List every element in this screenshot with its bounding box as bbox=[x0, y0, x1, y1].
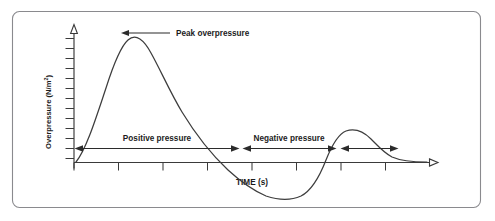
overpressure-curve bbox=[76, 37, 427, 199]
peak-overpressure-label: Peak overpressure bbox=[176, 29, 250, 38]
y-axis-arrowhead-icon bbox=[71, 25, 78, 34]
x-axis-group: TIME (s) bbox=[74, 159, 438, 187]
y-axis-label: Overpressure (N/m2) bbox=[43, 75, 53, 149]
x-axis-ticks bbox=[74, 163, 386, 171]
annotation-peak-overpressure: Peak overpressure bbox=[121, 29, 250, 38]
x-axis-label: TIME (s) bbox=[236, 178, 268, 187]
peak-overpressure-arrowhead-icon bbox=[121, 30, 129, 36]
negative-pressure-left-arrowhead-icon bbox=[243, 145, 252, 152]
second-positive-phase-left-arrowhead-icon bbox=[341, 145, 350, 152]
positive-pressure-right-arrowhead-icon bbox=[231, 145, 240, 152]
figure-root: Overpressure (N/m2) TIME (s) bbox=[0, 0, 495, 221]
overpressure-time-chart: Overpressure (N/m2) TIME (s) bbox=[0, 0, 495, 221]
annotation-negative-pressure: Negative pressure bbox=[243, 134, 337, 152]
x-axis-arrowhead-icon bbox=[430, 159, 439, 166]
positive-pressure-left-arrowhead-icon bbox=[75, 145, 84, 152]
y-axis-ticks bbox=[66, 39, 75, 159]
positive-pressure-label: Positive pressure bbox=[123, 134, 192, 143]
second-positive-phase-right-arrowhead-icon bbox=[390, 145, 399, 152]
annotation-positive-pressure: Positive pressure bbox=[75, 134, 240, 152]
y-axis-group: Overpressure (N/m2) bbox=[43, 25, 77, 169]
y-axis-label-group: Overpressure (N/m2) bbox=[43, 75, 53, 149]
negative-pressure-label: Negative pressure bbox=[254, 134, 325, 143]
annotation-second-positive-phase bbox=[341, 145, 399, 152]
